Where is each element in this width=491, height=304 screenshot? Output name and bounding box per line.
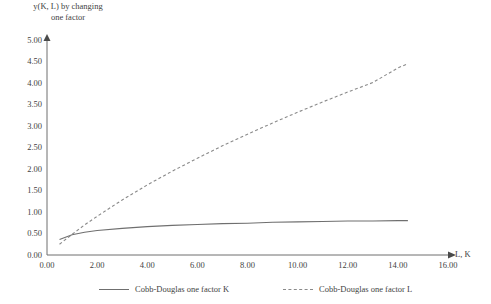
legend-label-l: Cobb-Douglas one factor L <box>319 284 412 294</box>
series-line-cobb-douglas-l <box>60 64 408 245</box>
x-axis-arrowhead <box>448 252 456 259</box>
legend-swatch-solid-line-icon <box>99 285 129 293</box>
legend-entry-cobb-douglas-l[interactable]: Cobb-Douglas one factor L <box>283 284 412 294</box>
series-lines <box>60 64 408 245</box>
series-line-cobb-douglas-k <box>60 221 408 240</box>
y-axis-arrowhead <box>44 34 51 41</box>
axis-lines <box>44 34 457 259</box>
legend-label-k: Cobb-Douglas one factor K <box>135 284 229 294</box>
plot-area <box>0 0 491 304</box>
legend-entry-cobb-douglas-k[interactable]: Cobb-Douglas one factor K <box>99 284 229 294</box>
chart-legend: Cobb-Douglas one factor K Cobb-Douglas o… <box>0 283 491 301</box>
cobb-douglas-chart: y(K, L) by changing one factor L, K 0.00… <box>0 0 491 304</box>
legend-swatch-dashed-line-icon <box>283 285 313 293</box>
